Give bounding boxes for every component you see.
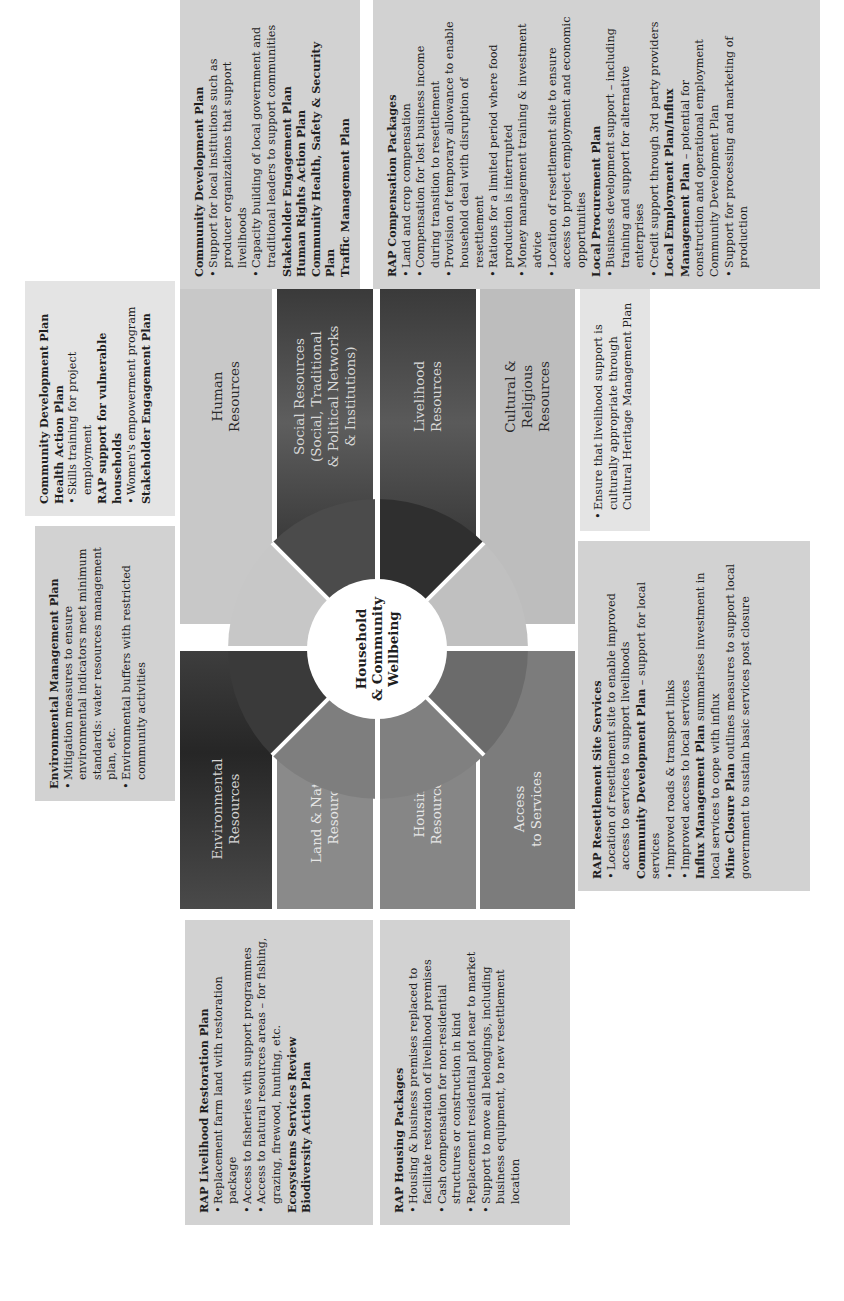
bullet: Business development support – including… (604, 12, 648, 277)
bullet: Improved access to local services (679, 553, 694, 879)
plan-stakeholder: Stakeholder Engagement Plan (280, 12, 295, 277)
bullet: Support for local institutions such as p… (207, 12, 251, 277)
line-stakeholder: Stakeholder Engagement Plan (139, 293, 154, 504)
box-heading: RAP Compensation Packages (385, 12, 400, 277)
bullet: Support to move all belongings, includin… (480, 932, 524, 1213)
bullet: Ensure that livelihood support is cultur… (592, 293, 636, 519)
box-heading: RAP Resettlement Site Services (590, 553, 605, 879)
influx-line: Influx Management Plan summarises invest… (693, 553, 723, 879)
housing-box: RAP Housing Packages Housing & business … (380, 920, 570, 1225)
bullet: Rations for a limited period where food … (487, 12, 516, 277)
bullet: Provision of temporary allowance to enab… (443, 12, 487, 277)
bullet: Location of resettlement site to enable … (605, 553, 634, 879)
procurement-heading: Local Procurement Plan (589, 12, 604, 277)
bullet: Location of resettlement site to ensure … (546, 12, 590, 277)
cdp-line: Community Development Plan – support for… (634, 553, 664, 879)
bullet: Environmental buffers with restricted co… (120, 538, 149, 789)
box-heading: RAP Livelihood Restoration Plan (197, 932, 212, 1213)
bullet: Replacement farm land with restoration p… (212, 932, 241, 1213)
center-household-community-wellbeing: Household & Community Wellbeing (307, 579, 447, 719)
social-box: Community Development Plan Support for l… (180, 0, 360, 289)
bullet: Capacity building of local government an… (250, 12, 279, 277)
bullet: Support for processing and marketing of … (723, 12, 752, 277)
bullet: Compensation for lost business income du… (414, 12, 443, 277)
plan-ecosystems: Ecosystems Services Review (285, 932, 300, 1213)
plan-human-rights: Human Rights Action Plan (294, 12, 309, 277)
employment-line: Local Employment Plan/Influx Management … (662, 12, 708, 277)
bullet: Land and crop compensation (400, 12, 415, 277)
bullet: Cash compensation for non-residential st… (436, 932, 465, 1213)
bullet: Mitigation measures to ensure environmen… (62, 538, 120, 789)
human-resources-box: Community Development Plan Health Action… (25, 281, 175, 516)
plan-community-health: Community Health, Safety & Security Plan (309, 12, 338, 277)
wellbeing-diagram: Environmental Resources Land & Natural R… (180, 289, 575, 909)
line-health-action: Health Action Plan (52, 293, 67, 504)
bullet: Money management training & investment a… (516, 12, 545, 277)
line-cdp: Community Development Plan (37, 293, 52, 504)
environmental-management-box: Environmental Management Plan Mitigation… (35, 526, 175, 801)
bullet: Housing & business premises replaced to … (407, 932, 436, 1213)
cultural-box: Ensure that livelihood support is cultur… (580, 281, 650, 531)
mine-closure-line: Mine Closure Plan outlines measures to s… (723, 553, 753, 879)
bullet: Credit support through 3rd party provide… (648, 12, 663, 277)
bullet: Skills training for project employment (66, 293, 95, 504)
bullet: Replacement residential plot near to mar… (465, 932, 480, 1213)
plan-biodiversity: Biodiversity Action Plan (299, 932, 314, 1213)
bullet: Access to natural resources areas – for … (255, 932, 284, 1213)
line-rap-support: RAP support for vulnerable households (95, 293, 124, 504)
figure-title-fragment (0, 0, 24, 1301)
bullet: Access to fisheries with support program… (241, 932, 256, 1213)
cdp-line: Community Development Plan (708, 12, 723, 277)
plan-traffic: Traffic Management Plan (338, 12, 353, 277)
access-services-box: RAP Resettlement Site Services Location … (578, 541, 810, 891)
rotated-figure: Environmental Management Plan Mitigation… (0, 0, 844, 1301)
bullet: Women's empowerment program (125, 293, 140, 504)
land-natural-box: RAP Livelihood Restoration Plan Replacem… (185, 920, 373, 1225)
box-heading: RAP Housing Packages (392, 932, 407, 1213)
bullet: Improved roads & transport links (664, 553, 679, 879)
livelihood-box: RAP Compensation Packages Land and crop … (373, 0, 820, 289)
box-heading: Community Development Plan (192, 12, 207, 277)
box-heading: Environmental Management Plan (47, 538, 62, 789)
